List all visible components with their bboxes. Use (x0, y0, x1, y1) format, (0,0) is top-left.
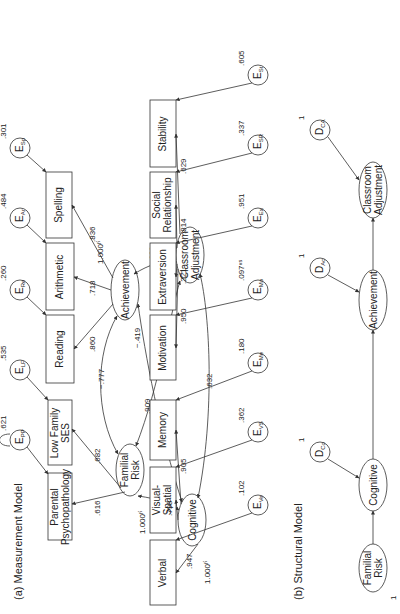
svg-text:Reading: Reading (54, 330, 65, 367)
svg-text:SES: SES (60, 423, 71, 443)
svg-text:Visual-: Visual- (151, 485, 162, 515)
svg-text:Psychopathology: Psychopathology (60, 469, 71, 545)
svg-text:Risk: Risk (373, 557, 384, 577)
loading-pp: .616 (93, 500, 102, 516)
disturbance-achievement: DAc 1 (297, 253, 359, 292)
indicator-extraversion: Extraversion (150, 243, 176, 310)
svg-text:.180: .180 (237, 338, 246, 354)
error-sr: ESR .337 (176, 120, 268, 172)
loading-ex: .221 (179, 268, 188, 284)
indicator-parental-psychopathology: Parental Psychopathology (48, 469, 72, 545)
error-lf: ELF .535 (0, 345, 48, 400)
indicator-reading: Reading (46, 315, 74, 383)
error-re: ERe .260 (0, 265, 46, 315)
svg-text:.951: .951 (237, 193, 246, 209)
svg-text:1: 1 (297, 115, 306, 120)
disturbance-cognitive: DCo 1 (297, 437, 359, 478)
corr-cognitive-classroom: .632 (205, 373, 214, 389)
loading-st: .629 (179, 158, 188, 174)
svg-text:Verbal: Verbal (157, 559, 168, 587)
disturbance-classroom: DCA 1 (297, 115, 359, 180)
error-sp: ESp .301 (0, 123, 46, 172)
structural-achievement: Achievement (359, 270, 387, 330)
error-me: EMe .180 (176, 338, 268, 400)
svg-text:1: 1 (389, 595, 398, 600)
latent-cognitive: Cognitive 1.000ᶠⁱ (178, 494, 212, 584)
latent-achievement: Achievement 1.000ᶠⁱ (96, 241, 139, 320)
error-pp: EPP .621 (0, 415, 48, 474)
svg-text:Extraversion: Extraversion (157, 249, 168, 305)
svg-text:Memory: Memory (157, 412, 168, 448)
structural-model-title: (b) Structural Model (292, 503, 304, 600)
svg-text:Spelling: Spelling (53, 187, 64, 223)
indicator-spelling: Spelling (46, 172, 72, 238)
svg-text:Motivation: Motivation (157, 325, 168, 371)
loading-me: .905 (179, 458, 188, 474)
svg-text:.362: .362 (237, 407, 246, 423)
loading-lf: .682 (93, 448, 102, 464)
svg-text:Social: Social (151, 191, 162, 218)
svg-text:Adjustment: Adjustment (190, 230, 201, 280)
svg-text:Cognitive: Cognitive (368, 464, 379, 506)
svg-text:Parental: Parental (49, 488, 60, 525)
loading-ar: .718 (88, 280, 97, 296)
svg-text:Low Family: Low Family (49, 408, 60, 459)
svg-text:Familial: Familial (362, 551, 373, 585)
svg-text:.102: .102 (237, 480, 246, 496)
svg-text:.535: .535 (0, 345, 8, 361)
corr-familial-achievement: −.777 (97, 368, 106, 389)
measurement-model-title: (a) Measurement Model (12, 483, 24, 600)
svg-text:Familial: Familial (119, 453, 130, 487)
loading-vs: .798 (165, 500, 174, 516)
error-ar: EAr .484 (0, 193, 46, 243)
structural-familial-risk: Familial Risk 1 (359, 544, 398, 600)
indicator-arithmetic: Arithmetic (46, 243, 74, 310)
indicator-memory: Memory (150, 400, 176, 460)
loading-ve: .947 (185, 553, 194, 569)
svg-text:.484: .484 (0, 193, 8, 209)
svg-text:Stability: Stability (157, 116, 168, 151)
indicator-low-family-ses: Low Family SES (48, 400, 72, 465)
error-vs: EVS .362 (176, 407, 268, 467)
svg-text:.260: .260 (0, 265, 8, 281)
svg-text:Classroom: Classroom (362, 166, 373, 214)
loading-re: .860 (88, 336, 97, 352)
svg-text:1: 1 (297, 253, 306, 258)
svg-text:Relationship: Relationship (162, 177, 173, 232)
indicator-verbal: Verbal (150, 540, 176, 605)
svg-text:1.000ᶠⁱ: 1.000ᶠⁱ (138, 511, 147, 534)
loading-mo: .950 (179, 308, 188, 324)
svg-text:.337: .337 (237, 120, 246, 136)
svg-text:.621: .621 (0, 415, 8, 431)
svg-text:.605: .605 (237, 50, 246, 66)
svg-text:Achievement: Achievement (120, 261, 131, 319)
svg-text:1: 1 (297, 437, 306, 442)
svg-text:Adjustment: Adjustment (373, 165, 384, 215)
svg-text:Arithmetic: Arithmetic (54, 255, 65, 299)
svg-text:1.000ᶠⁱ: 1.000ᶠⁱ (203, 561, 212, 584)
indicator-social-relationship: Social Relationship (150, 172, 176, 238)
structural-classroom-adjustment: Classroom Adjustment (359, 162, 387, 218)
svg-text:.301: .301 (0, 123, 8, 139)
loading-sp: .836 (88, 226, 97, 242)
indicator-stability: Stability (150, 100, 176, 167)
svg-text:Achievement: Achievement (368, 271, 379, 329)
sem-figure: (a) Measurement Model Parental Psychopat… (0, 0, 400, 614)
structural-cognitive: Cognitive (359, 459, 387, 511)
corr-achievement-cognitive: −.419 (133, 327, 142, 348)
indicator-motivation: Motivation (150, 315, 176, 380)
latent-familial-risk: Familial Risk 1.000ᶠⁱ (116, 444, 147, 534)
svg-text:.097ⁿˢ: .097ⁿˢ (237, 260, 246, 281)
error-st: ESt .605 (176, 50, 268, 100)
loading-sr: .814 (179, 218, 188, 234)
svg-text:Risk: Risk (130, 459, 141, 479)
